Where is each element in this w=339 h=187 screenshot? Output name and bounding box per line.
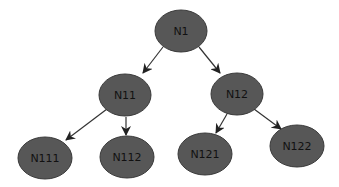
- node-n111: N111: [18, 137, 72, 179]
- node-label: N112: [112, 151, 141, 164]
- node-label: N1: [173, 25, 188, 38]
- edge-n1-n12: [199, 47, 220, 73]
- node-n121: N121: [178, 133, 232, 175]
- edge-n12-n121: [216, 114, 227, 133]
- node-n11: N11: [99, 74, 151, 116]
- node-label: N111: [30, 152, 59, 165]
- edge-n11-n111: [66, 109, 107, 140]
- node-n1: N1: [155, 10, 207, 52]
- node-label: N12: [226, 88, 248, 101]
- node-n112: N112: [100, 136, 154, 178]
- edge-n12-n122: [254, 109, 281, 129]
- node-label: N11: [114, 89, 136, 102]
- tree-diagram-svg: N1N11N12N111N112N121N122: [0, 0, 339, 187]
- node-n12: N12: [211, 73, 263, 115]
- node-label: N122: [282, 140, 311, 153]
- nodes-layer: N1N11N12N111N112N121N122: [18, 10, 324, 179]
- tree-diagram: N1N11N12N111N112N121N122: [0, 0, 339, 187]
- edge-n1-n11: [143, 47, 163, 73]
- node-label: N121: [190, 148, 219, 161]
- node-n122: N122: [270, 125, 324, 167]
